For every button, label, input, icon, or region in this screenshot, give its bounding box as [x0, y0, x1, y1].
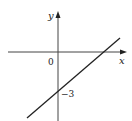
function-line: [27, 38, 120, 118]
y-intercept-label: −3: [61, 89, 75, 99]
line-graph: y x 0 −3: [0, 0, 132, 121]
origin-label: 0: [48, 57, 54, 67]
x-axis-arrow-icon: [120, 50, 127, 55]
y-axis-arrow-icon: [56, 11, 61, 18]
y-axis-label: y: [47, 10, 54, 21]
x-axis-label: x: [119, 55, 125, 66]
